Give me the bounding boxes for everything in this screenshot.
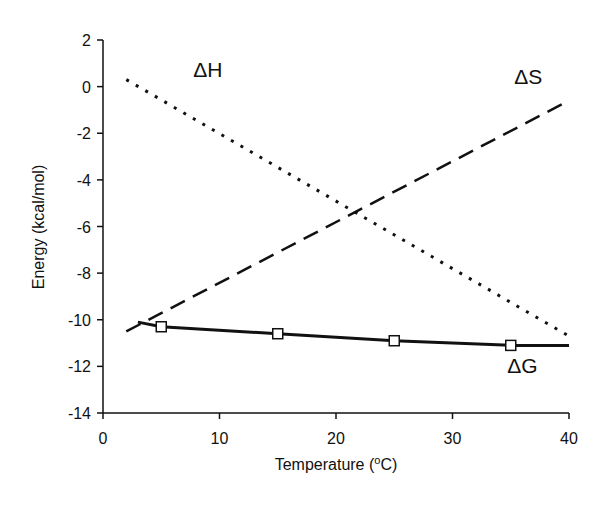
- y-tick-label: -6: [77, 219, 91, 236]
- x-ticks: 010203040: [99, 413, 578, 447]
- x-tick-label: 40: [560, 430, 578, 447]
- y-tick-label: -14: [68, 405, 91, 422]
- data-marker: [273, 329, 283, 339]
- x-tick-label: 20: [327, 430, 345, 447]
- y-tick-label: 2: [82, 32, 91, 49]
- series-delta-s: [126, 101, 569, 332]
- x-tick-label: 30: [444, 430, 462, 447]
- x-tick-label: 10: [211, 430, 229, 447]
- series-delta-g: [138, 322, 569, 345]
- y-tick-label: -10: [68, 312, 91, 329]
- series-layer: [126, 80, 569, 351]
- axes: 20-2-4-6-8-10-12-14 010203040: [68, 32, 578, 447]
- y-tick-label: -8: [77, 265, 91, 282]
- series-labels: ΔHΔSΔG: [193, 58, 542, 377]
- y-tick-label: -4: [77, 172, 91, 189]
- series-label: ΔS: [514, 65, 542, 88]
- y-ticks: 20-2-4-6-8-10-12-14: [68, 32, 103, 422]
- y-tick-label: 0: [82, 79, 91, 96]
- x-axis-title: Temperature (oC): [275, 454, 398, 473]
- x-tick-label: 0: [99, 430, 108, 447]
- y-tick-label: -12: [68, 358, 91, 375]
- series-label: ΔG: [507, 354, 537, 377]
- data-marker: [506, 340, 516, 350]
- chart: 20-2-4-6-8-10-12-14 010203040 Temperatur…: [0, 0, 604, 517]
- series-delta-h: [126, 80, 569, 337]
- data-marker: [156, 322, 166, 332]
- y-tick-label: -2: [77, 125, 91, 142]
- y-axis-title: Energy (kcal/mol): [30, 165, 47, 289]
- data-marker: [389, 336, 399, 346]
- series-label: ΔH: [193, 58, 222, 81]
